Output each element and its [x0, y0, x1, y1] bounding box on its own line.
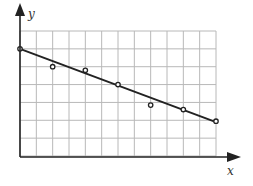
data-point	[181, 107, 185, 111]
scatter-chart: y x	[0, 0, 253, 186]
data-point	[214, 119, 218, 123]
x-axis-label: x	[227, 164, 234, 178]
data-point	[83, 68, 87, 72]
y-axis	[15, 3, 25, 157]
data-point	[148, 103, 152, 107]
y-axis-label: y	[27, 7, 35, 21]
x-axis-arrow-icon	[227, 152, 241, 162]
data-point	[50, 65, 54, 69]
data-point	[116, 82, 120, 86]
y-axis-arrow-icon	[15, 3, 25, 16]
grid	[20, 31, 216, 156]
